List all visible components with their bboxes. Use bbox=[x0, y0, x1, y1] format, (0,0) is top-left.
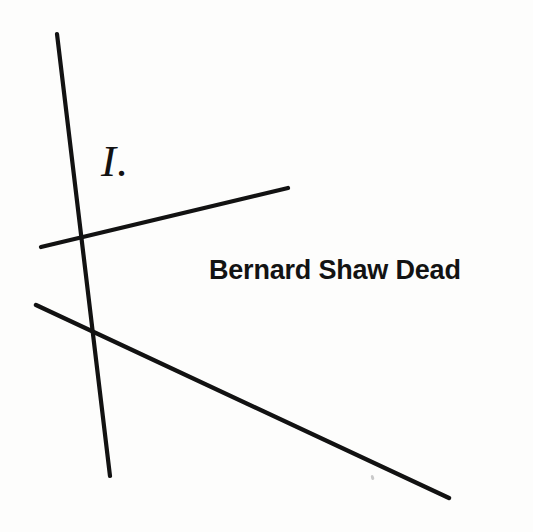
figure-number-label: I. bbox=[101, 139, 129, 184]
figure-caption-text: Bernard Shaw Dead bbox=[209, 256, 461, 284]
scanned-figure: I. Bernard Shaw Dead bbox=[0, 0, 533, 532]
